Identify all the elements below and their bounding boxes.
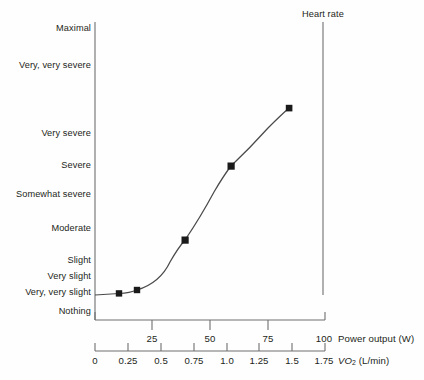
vo2-tick-label-0: 0 — [92, 355, 97, 366]
y-label-very-slight: Very slight — [48, 271, 91, 281]
data-point-marker — [134, 287, 140, 293]
power-tick-label-50: 50 — [205, 333, 216, 344]
y-label-maximal: Maximal — [56, 23, 91, 33]
exertion-curve — [95, 108, 289, 295]
y-label-moderate: Moderate — [51, 223, 91, 233]
y-label-somewhat-severe: Somewhat severe — [16, 189, 91, 199]
power-axis-title: Power output (W) — [338, 333, 414, 344]
data-point-marker — [182, 237, 189, 244]
data-point-marker — [116, 290, 122, 296]
vo2-tick-label-1-75: 1.75 — [314, 355, 333, 366]
data-point-marker — [286, 105, 293, 112]
y-label-very-very-slight: Very, very slight — [25, 287, 91, 297]
y-label-very-very-severe: Very, very severe — [19, 60, 91, 70]
y-label-slight: Slight — [67, 255, 91, 265]
vo2-tick-label-0-75: 0.75 — [184, 355, 203, 366]
vo2-axis-title-o: O — [345, 355, 353, 366]
vo2-tick-label-0-5: 0.5 — [154, 355, 168, 366]
vo2-axis-title: VO2 (L/min) — [338, 355, 389, 366]
vo2-tick-label-1-5: 1.5 — [285, 355, 299, 366]
vo2-axis-title-units: (L/min) — [356, 355, 389, 366]
vo2-tick-label-0-25: 0.25 — [118, 355, 137, 366]
y-label-very-severe: Very severe — [41, 128, 91, 138]
y-label-nothing: Nothing — [59, 306, 91, 316]
power-tick-label-100: 100 — [316, 333, 332, 344]
power-tick-label-25: 25 — [147, 333, 158, 344]
chart-container: Maximal Very, very severe Very severe Se… — [0, 0, 424, 380]
vo2-tick-label-1-25: 1.25 — [249, 355, 268, 366]
power-tick-label-75: 75 — [263, 333, 274, 344]
y-label-severe: Severe — [61, 160, 91, 170]
heart-rate-axis-label: Heart rate — [302, 9, 344, 19]
data-point-marker — [228, 163, 235, 170]
vo2-tick-label-1-0: 1.0 — [220, 355, 234, 366]
